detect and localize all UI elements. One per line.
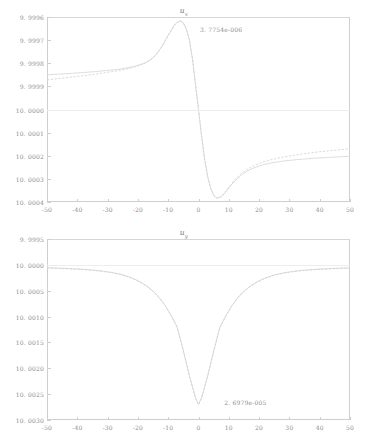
y-tick-mark: [47, 40, 51, 41]
x-tick-mark: [289, 199, 290, 202]
curve-reference: [47, 268, 350, 405]
x-tick-label: 50: [346, 424, 354, 431]
gridline-zero: [47, 110, 350, 111]
x-tick-label: 40: [316, 424, 324, 431]
x-tick-mark: [320, 417, 321, 420]
y-tick-mark: [47, 179, 51, 180]
y-tick-label: 10. 0020: [16, 365, 44, 372]
figure-canvas: ux 9. 99969. 99979. 99989. 999910. 00001…: [0, 0, 368, 447]
x-tick-mark: [229, 417, 230, 420]
x-tick-mark: [168, 417, 169, 420]
gridline-zero: [47, 265, 350, 266]
x-tick-mark: [108, 199, 109, 202]
y-tick-label: 9. 9999: [20, 83, 44, 90]
x-tick-label: 20: [255, 424, 263, 431]
x-tick-mark: [47, 417, 48, 420]
y-tick-label: 9. 9998: [20, 60, 44, 67]
y-tick-mark: [47, 63, 51, 64]
x-tick-mark: [108, 417, 109, 420]
curve-computed: [47, 268, 350, 405]
x-tick-mark: [259, 199, 260, 202]
x-tick-mark: [138, 199, 139, 202]
y-tick-label: 10. 0025: [16, 391, 44, 398]
x-tick-label: 50: [346, 206, 354, 213]
x-tick-label: -20: [133, 424, 143, 431]
y-tick-label: 10. 0001: [16, 129, 44, 136]
x-tick-mark: [199, 199, 200, 202]
y-tick-mark: [47, 133, 51, 134]
y-tick-mark: [47, 202, 51, 203]
x-tick-mark: [350, 417, 351, 420]
y-tick-label: 9. 9996: [20, 14, 44, 21]
x-tick-mark: [229, 199, 230, 202]
y-tick-label: 10. 0002: [16, 152, 44, 159]
extremum-annotation: 2. 6979e-005: [224, 399, 266, 406]
y-tick-label: 10. 0030: [16, 417, 44, 424]
x-tick-label: 20: [255, 206, 263, 213]
x-tick-label: 10: [225, 424, 233, 431]
x-tick-mark: [138, 417, 139, 420]
y-tick-mark: [47, 420, 51, 421]
x-tick-label: 0: [196, 206, 200, 213]
y-tick-label: 10. 0005: [16, 287, 44, 294]
extremum-annotation: 3. 7754e-006: [200, 26, 242, 33]
y-tick-mark: [47, 368, 51, 369]
x-tick-mark: [350, 199, 351, 202]
x-tick-label: -20: [133, 206, 143, 213]
y-tick-label: 9. 9995: [20, 236, 44, 243]
x-tick-mark: [289, 417, 290, 420]
x-tick-label: -40: [72, 424, 82, 431]
x-tick-label: 10: [225, 206, 233, 213]
y-tick-mark: [47, 317, 51, 318]
y-tick-label: 9. 9997: [20, 37, 44, 44]
x-tick-mark: [47, 199, 48, 202]
y-tick-mark: [47, 291, 51, 292]
curves-uy: [0, 224, 368, 447]
x-tick-label: -50: [42, 206, 52, 213]
x-tick-mark: [320, 199, 321, 202]
curves-ux: [0, 0, 368, 224]
chart-panel-ux: ux 9. 99969. 99979. 99989. 999910. 00001…: [0, 0, 368, 224]
y-tick-mark: [47, 156, 51, 157]
y-tick-label: 10. 0000: [16, 106, 44, 113]
chart-panel-uy: uy 9. 999510. 000010. 000510. 001010. 00…: [0, 224, 368, 447]
x-tick-label: 0: [196, 424, 200, 431]
x-tick-mark: [199, 417, 200, 420]
x-tick-label: 30: [285, 206, 293, 213]
x-tick-label: 30: [285, 424, 293, 431]
x-tick-mark: [77, 199, 78, 202]
y-tick-label: 10. 0015: [16, 339, 44, 346]
y-tick-label: 10. 0003: [16, 175, 44, 182]
y-tick-mark: [47, 17, 51, 18]
y-tick-mark: [47, 342, 51, 343]
y-tick-mark: [47, 86, 51, 87]
x-tick-label: 40: [316, 206, 324, 213]
y-tick-label: 10. 0000: [16, 261, 44, 268]
x-tick-label: -40: [72, 206, 82, 213]
x-tick-label: -30: [102, 424, 112, 431]
x-tick-label: -10: [163, 424, 173, 431]
y-tick-mark: [47, 394, 51, 395]
x-tick-mark: [259, 417, 260, 420]
x-tick-label: -10: [163, 206, 173, 213]
x-tick-mark: [77, 417, 78, 420]
y-tick-label: 10. 0004: [16, 199, 44, 206]
y-tick-label: 10. 0010: [16, 313, 44, 320]
x-tick-mark: [168, 199, 169, 202]
x-tick-label: -50: [42, 424, 52, 431]
x-tick-label: -30: [102, 206, 112, 213]
y-tick-mark: [47, 239, 51, 240]
